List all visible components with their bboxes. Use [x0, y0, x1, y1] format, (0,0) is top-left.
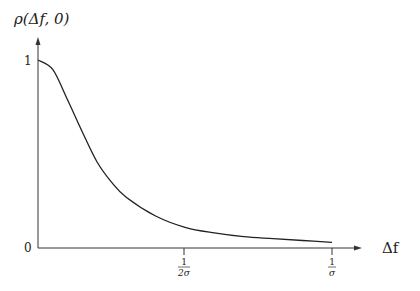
x-tick-half-denominator: 2σ: [177, 268, 191, 278]
y-axis-arrow-icon: [36, 37, 41, 45]
correlation-chart: ρ(Δf, 0) 1 0 1 2σ 1 σ Δf: [0, 0, 420, 291]
x-axis-arrow-icon: [354, 246, 362, 251]
y-tick-label-1: 1: [24, 54, 32, 68]
y-axis-label: ρ(Δf, 0): [13, 10, 70, 28]
data-curve: [38, 60, 332, 242]
x-tick-one-numerator: 1: [329, 257, 335, 267]
y-tick-label-0: 0: [24, 241, 32, 255]
x-tick-one-denominator: σ: [329, 268, 336, 278]
x-tick-half-numerator: 1: [181, 257, 187, 267]
x-axis-label: Δf: [382, 239, 400, 257]
